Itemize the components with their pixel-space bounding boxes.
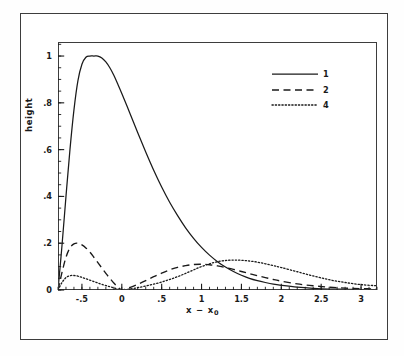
chart-page: height x − x0 -.50.511.522.530.2.4.6.811…: [0, 0, 404, 356]
y-axis-tick-label: 0: [46, 285, 52, 295]
y-axis-tick-label: .8: [43, 98, 52, 108]
legend-label-4: 4: [323, 100, 329, 110]
y-axis-tick-label: .4: [43, 191, 52, 201]
x-axis-tick-label: 0: [119, 294, 125, 304]
x-axis-tick-label: -.5: [76, 294, 89, 304]
x-axis-tick-label: 2.5: [314, 294, 329, 304]
y-axis-tick-label: 1: [46, 51, 52, 61]
x-axis-tick-label: 2: [278, 294, 284, 304]
y-axis-tick-label: .2: [43, 238, 52, 248]
x-axis-tick-label: 3: [358, 294, 364, 304]
x-axis-tick-label: 1: [199, 294, 205, 304]
y-axis-tick-label: .6: [43, 145, 52, 155]
x-axis-tick-label: .5: [157, 294, 166, 304]
legend-label-2: 2: [323, 85, 329, 95]
x-axis-tick-label: 1.5: [234, 294, 249, 304]
legend-label-1: 1: [323, 69, 329, 79]
axis-and-legend-layer: -.50.511.522.530.2.4.6.81124: [0, 0, 404, 356]
